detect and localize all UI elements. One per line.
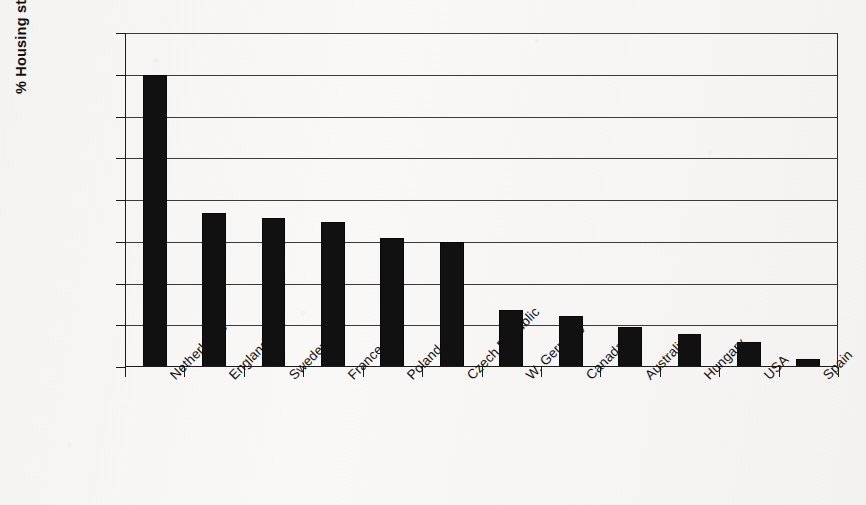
x-tick-label: Australia: [642, 372, 653, 383]
bar[interactable]: [440, 242, 464, 367]
gridline: [125, 242, 838, 243]
x-tick-label: Czech Republic: [464, 372, 475, 383]
y-tick-mark: [116, 367, 125, 368]
x-tick-label: Canada: [583, 372, 594, 383]
right-axis-spine: [837, 33, 838, 367]
y-tick-mark: [116, 200, 125, 201]
gridline: [125, 284, 838, 285]
y-tick-mark: [116, 158, 125, 159]
x-tick-label: W. Germany: [523, 372, 534, 383]
y-tick-mark: [116, 242, 125, 243]
gridline: [125, 33, 838, 34]
x-tick-label: Netherlands: [167, 372, 178, 383]
x-tick-label: USA: [761, 372, 772, 383]
gridline: [125, 117, 838, 118]
gridline: [125, 158, 838, 159]
gridline: [125, 200, 838, 201]
x-tick-label: Poland: [404, 372, 415, 383]
bar-chart-figure: % Housing stock 0510152025303540 Netherl…: [0, 0, 866, 505]
gridline: [125, 325, 838, 326]
x-tick-label: Spain: [820, 372, 831, 383]
y-tick-mark: [116, 117, 125, 118]
plot-area: [125, 33, 838, 367]
x-tick-label: Sweden: [286, 372, 297, 383]
gridline: [125, 75, 838, 76]
y-tick-mark: [116, 75, 125, 76]
y-axis-spine: [125, 33, 126, 367]
bar[interactable]: [143, 75, 167, 367]
y-tick-mark: [116, 284, 125, 285]
x-tick-label: Hungary: [701, 372, 712, 383]
y-axis-title: % Housing stock: [4, 0, 38, 94]
bar[interactable]: [380, 238, 404, 367]
x-tick-labels: NetherlandsEnglandSwedenFrancePolandCzec…: [125, 372, 838, 502]
x-tick-label: England: [226, 372, 237, 383]
y-tick-mark: [116, 33, 125, 34]
y-tick-mark: [116, 325, 125, 326]
x-tick-label: France: [345, 372, 356, 383]
